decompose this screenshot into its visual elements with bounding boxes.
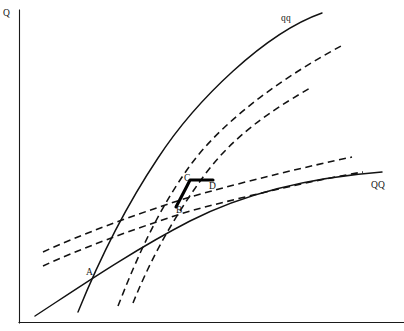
adjustment-path-group — [176, 180, 213, 207]
point-label-a: A — [86, 267, 93, 277]
curve-qq-shift-1 — [118, 45, 343, 306]
diagram-canvas: Q qq QQ A B C D — [0, 0, 404, 331]
axes-group — [19, 10, 404, 323]
curve-label-qq: qq — [281, 13, 291, 23]
curve-QQ-shift-2 — [43, 172, 363, 266]
curve-qq-shift-2 — [133, 88, 310, 303]
point-label-d: D — [209, 181, 216, 191]
point-label-c: C — [184, 173, 191, 183]
y-axis-label: Q — [3, 8, 10, 18]
curve-label-QQ: QQ — [371, 180, 385, 190]
figure-root: Q qq QQ A B C D — [0, 0, 404, 331]
curve-qq-solid — [78, 13, 322, 312]
point-label-b: B — [176, 205, 183, 215]
curve-QQ-shift-1 — [43, 157, 352, 252]
curve-QQ-solid — [35, 172, 382, 316]
adjustment-path-bcd — [176, 180, 213, 207]
labels-group: Q qq QQ A B C D — [3, 8, 385, 277]
